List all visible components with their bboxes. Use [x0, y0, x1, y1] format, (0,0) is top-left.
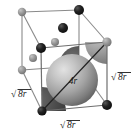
interior-atom-gray-2 [29, 54, 37, 62]
figure-container: 4r √ 8r √ 8r √ 8r [0, 0, 132, 133]
edge-label-right: √ 8r [111, 72, 131, 82]
edge-label-left: √ 8r [11, 89, 31, 99]
interior-atom-dark [58, 23, 68, 33]
corner-atom-front-bottom-left [37, 106, 46, 115]
corner-atom-back-bottom-left [18, 66, 26, 74]
corner-atom-back-top-right [74, 5, 84, 15]
interior-atom-gray-1 [51, 38, 59, 46]
radical-symbol-right: √ [111, 72, 117, 82]
edge-label-right-text: 8r [118, 72, 127, 82]
corner-atom-back-top-left [18, 8, 26, 16]
radical-symbol-bottom: √ [60, 120, 66, 130]
center-sphere-label: 4r [69, 76, 78, 86]
corner-atom-front-top-right [102, 37, 111, 46]
corner-atom-front-top-left [36, 43, 46, 53]
radical-symbol-left: √ [11, 89, 17, 99]
edge-label-bottom-text: 8r [67, 120, 76, 130]
corner-atom-front-bottom-right [102, 100, 112, 110]
edge-label-bottom: √ 8r [60, 120, 80, 130]
bcc-unit-cell-svg: 4r √ 8r √ 8r √ 8r [0, 0, 132, 133]
edge-label-left-text: 8r [18, 89, 27, 99]
